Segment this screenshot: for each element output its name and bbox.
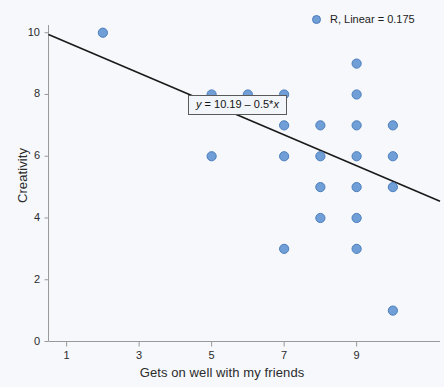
data-point [316,183,325,192]
y-axis-tick-label: 10 [8,26,40,38]
x-axis-ticks [67,342,357,347]
axis-lines [49,25,441,342]
data-point [352,121,361,130]
data-point [388,152,397,161]
plot-canvas [0,0,444,387]
regression-line-path [49,35,441,202]
x-axis-tick-label: 7 [264,349,304,361]
legend: R, Linear = 0.175 [312,13,415,25]
data-point [280,121,289,130]
regression-equation-callout: y = 10.19 – 0.5*x [188,95,287,115]
x-axis-tick-label: 5 [192,349,232,361]
y-axis-tick-label: 0 [8,335,40,347]
data-point [352,59,361,68]
data-point [98,28,107,37]
data-point [316,152,325,161]
x-axis-tick-label: 1 [47,349,87,361]
data-point [388,183,397,192]
data-point [316,121,325,130]
x-axis-tick-label: 3 [119,349,159,361]
equation-x-symbol: x [273,98,279,110]
x-axis-tick-label: 9 [337,349,377,361]
legend-label: R, Linear = 0.175 [330,13,415,25]
data-point [352,152,361,161]
data-point [388,121,397,130]
y-axis-title: Creativity [15,106,30,246]
regression-line [49,35,441,202]
y-axis-tick-label: 8 [8,87,40,99]
data-points [98,28,397,315]
equation-body: = 10.19 – 0.5* [202,98,274,110]
data-point [388,306,397,315]
y-axis-ticks [45,33,49,342]
data-point [352,183,361,192]
data-point [207,152,216,161]
data-point [280,244,289,253]
legend-marker-icon [312,15,321,24]
data-point [352,213,361,222]
data-point [352,90,361,99]
y-axis-tick-label: 2 [8,273,40,285]
data-point [280,152,289,161]
scatter-plot-figure: 024681013579 Creativity Gets on well wit… [0,0,444,387]
data-point [316,213,325,222]
data-point [352,244,361,253]
x-axis-title: Gets on well with my friends [0,365,444,380]
